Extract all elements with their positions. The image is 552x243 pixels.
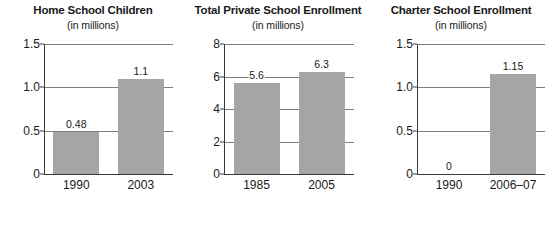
chart-title: Total Private School Enrollment xyxy=(186,4,370,16)
bar xyxy=(53,132,99,174)
x-tick-label: 2005 xyxy=(308,178,335,192)
chart-panel-home-school: Home School Children (in millions) 1.51.… xyxy=(0,0,186,192)
figure-container: Home School Children (in millions) 1.51.… xyxy=(0,0,552,243)
y-tick-label: 1.0 xyxy=(396,80,413,94)
y-axis xyxy=(224,44,225,174)
y-tick-label: 8 xyxy=(213,37,220,51)
y-tick-label: 0 xyxy=(213,167,220,181)
y-axis xyxy=(44,44,45,174)
bar-value-label: 6.3 xyxy=(313,58,330,70)
bar xyxy=(490,74,536,174)
gridline xyxy=(417,44,545,45)
y-tick-label: 1.5 xyxy=(396,37,413,51)
plot-area: 1.51.00.50019901.152006–07 xyxy=(417,44,545,174)
gridline xyxy=(44,174,173,175)
y-tick-label: 0.5 xyxy=(396,124,413,138)
gridline xyxy=(417,174,545,175)
x-tick-label: 2003 xyxy=(127,178,154,192)
y-axis xyxy=(417,44,418,174)
gridline xyxy=(44,44,173,45)
y-tick-label: 0.5 xyxy=(23,124,40,138)
figure-caption: Figure 11.5 Classroom Alternatives Tradi… xyxy=(0,192,552,243)
y-tick-label: 2 xyxy=(213,135,220,149)
chart-subtitle: (in millions) xyxy=(0,19,186,31)
bar xyxy=(299,72,345,174)
y-tick-label: 1.0 xyxy=(23,80,40,94)
x-tick-label: 2006–07 xyxy=(490,178,537,192)
chart-panel-charter-school: Charter School Enrollment (in millions) … xyxy=(370,0,552,192)
x-tick-label: 1990 xyxy=(436,178,463,192)
bar-value-label: 0 xyxy=(445,160,453,172)
y-tick-label: 4 xyxy=(213,102,220,116)
x-tick-label: 1985 xyxy=(243,178,270,192)
plot-area: 1.51.00.500.4819901.12003 xyxy=(44,44,173,174)
y-tick-label: 6 xyxy=(213,70,220,84)
y-tick-label: 1.5 xyxy=(23,37,40,51)
chart-title: Home School Children xyxy=(0,4,186,16)
gridline xyxy=(224,44,354,45)
charts-row: Home School Children (in millions) 1.51.… xyxy=(0,0,552,192)
bar-value-label: 1.1 xyxy=(132,65,149,77)
chart-subtitle: (in millions) xyxy=(370,19,552,31)
chart-subtitle: (in millions) xyxy=(186,19,370,31)
chart-title: Charter School Enrollment xyxy=(370,4,552,16)
y-tick-label: 0 xyxy=(33,167,40,181)
x-tick-label: 1990 xyxy=(63,178,90,192)
bar xyxy=(234,83,280,174)
plot-area: 864205.619856.32005 xyxy=(224,44,354,174)
bar-value-label: 1.15 xyxy=(502,60,524,72)
bar-value-label: 0.48 xyxy=(65,118,87,130)
gridline xyxy=(224,174,354,175)
bar-value-label: 5.6 xyxy=(248,69,265,81)
y-tick-label: 0 xyxy=(406,167,413,181)
chart-panel-private-school: Total Private School Enrollment (in mill… xyxy=(186,0,370,192)
bar xyxy=(118,79,164,174)
